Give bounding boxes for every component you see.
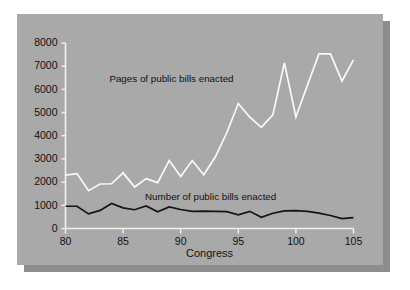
x-axis: 80859095100105 Congress: [60, 229, 363, 260]
y-tick-label: 8000: [34, 36, 58, 48]
y-tick-label: 7000: [34, 59, 58, 71]
y-tick-label: 4000: [34, 129, 58, 141]
y-tick-label: 1000: [34, 199, 58, 211]
x-tick-label: 100: [287, 235, 305, 247]
y-tick-label: 3000: [34, 152, 58, 164]
y-tick-label: 0: [52, 222, 58, 234]
annotation-pages: Pages of public bills enacted: [109, 73, 233, 84]
x-tick-label: 95: [232, 235, 244, 247]
figure-root: 010002000300040005000600070008000 808590…: [0, 0, 410, 290]
y-axis: 010002000300040005000600070008000: [34, 36, 65, 234]
series-annotations: Pages of public bills enacted Number of …: [109, 73, 276, 203]
y-tick-label: 5000: [34, 106, 58, 118]
y-tick-labels: 010002000300040005000600070008000: [34, 36, 58, 234]
x-tick-label: 105: [345, 235, 363, 247]
x-tick-labels: 80859095100105: [60, 235, 363, 247]
x-tick-label: 90: [175, 235, 187, 247]
series-line-number: [66, 203, 354, 218]
chart-svg: 010002000300040005000600070008000 808590…: [0, 0, 410, 290]
y-tick-label: 6000: [34, 83, 58, 95]
y-tick-label: 2000: [34, 175, 58, 187]
x-axis-title: Congress: [186, 247, 234, 259]
annotation-number: Number of public bills enacted: [145, 191, 276, 202]
x-tick-label: 85: [117, 235, 129, 247]
x-tick-label: 80: [60, 235, 72, 247]
